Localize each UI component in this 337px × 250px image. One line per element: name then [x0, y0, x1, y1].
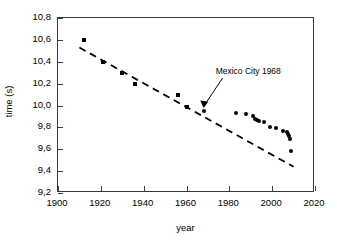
x-axis-title: year [57, 222, 314, 233]
data-point [120, 71, 124, 75]
x-tick-label: 2000 [251, 198, 291, 208]
x-axis-tick [101, 186, 102, 191]
data-point [101, 60, 105, 64]
y-tick-label: 9,4 [17, 165, 51, 175]
y-axis-tick [58, 84, 63, 85]
y-axis-tick [58, 106, 63, 107]
y-tick-label: 9,6 [17, 143, 51, 153]
y-axis-title: time (s) [3, 72, 14, 132]
plot-area [58, 18, 313, 191]
data-point [289, 149, 293, 153]
annotation-mexico-city-1968: Mexico City 1968 [216, 66, 281, 76]
data-point [82, 38, 86, 42]
x-axis-tick [229, 186, 230, 191]
y-tick-label: 10,8 [17, 12, 51, 22]
x-tick-label: 2020 [294, 198, 334, 208]
x-tick-label: 1900 [37, 198, 77, 208]
data-point [234, 111, 238, 115]
y-axis-tick [58, 149, 63, 150]
y-tick-label: 10,0 [17, 100, 51, 110]
data-point [244, 112, 248, 116]
x-axis-tick [144, 186, 145, 191]
plot-frame [57, 17, 314, 192]
x-axis-tick [315, 186, 316, 191]
y-tick-label: 10,6 [17, 34, 51, 44]
x-axis-tick [272, 186, 273, 191]
data-point [133, 82, 137, 86]
data-point [257, 119, 261, 123]
y-axis-tick [58, 127, 63, 128]
data-point [288, 137, 292, 141]
x-tick-label: 1940 [123, 198, 163, 208]
x-axis-tick [187, 186, 188, 191]
data-point [202, 109, 206, 113]
y-axis-tick [58, 62, 63, 63]
data-point [176, 93, 180, 97]
y-tick-label: 9,2 [17, 187, 51, 197]
x-tick-label: 1960 [166, 198, 206, 208]
y-tick-label: 9,8 [17, 121, 51, 131]
y-axis-tick [58, 193, 63, 194]
data-point [268, 125, 272, 129]
chart-figure: time (s) year 9,2 9,4 9,6 9,8 10,0 10,2 … [0, 0, 337, 250]
y-axis-tick [58, 40, 63, 41]
y-tick-label: 10,2 [17, 78, 51, 88]
x-axis-tick [58, 186, 59, 191]
data-point [262, 120, 266, 124]
y-axis-tick [58, 171, 63, 172]
x-tick-label: 1920 [80, 198, 120, 208]
x-tick-label: 1980 [208, 198, 248, 208]
y-axis-tick [58, 18, 63, 19]
data-point [274, 126, 278, 130]
data-point [185, 105, 189, 109]
y-tick-label: 10,4 [17, 56, 51, 66]
